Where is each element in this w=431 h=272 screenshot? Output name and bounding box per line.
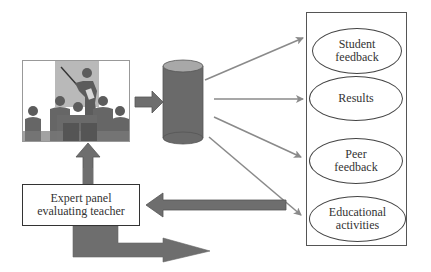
- arrow-to-student-feedback: [205, 38, 303, 80]
- arrow-to-peer-feedback: [214, 117, 301, 157]
- node-label: Results: [338, 92, 373, 105]
- database-cylinder-icon: [163, 60, 203, 144]
- arrow-outputs-to-expert-panel: [146, 193, 286, 217]
- node-label: Peer feedback: [331, 148, 381, 174]
- node-label: Student feedback: [331, 38, 383, 64]
- classroom-image: [22, 60, 130, 142]
- arrow-expert-panel-to-classroom: [76, 143, 100, 184]
- teacher-presenting-to-class-icon: [23, 61, 130, 142]
- node-peer-feedback: Peer feedback: [309, 138, 403, 184]
- arrow-expert-panel-outward: [73, 226, 210, 262]
- node-results: Results: [309, 76, 403, 121]
- node-expert-panel: Expert panel evaluating teacher: [22, 184, 140, 226]
- node-student-feedback: Student feedback: [312, 28, 402, 74]
- connector-lines: [205, 38, 303, 215]
- node-educational-activities: Educational activities: [309, 196, 406, 242]
- node-label: Educational activities: [327, 206, 389, 232]
- arrow-classroom-to-database: [135, 91, 163, 113]
- node-label: Expert panel evaluating teacher: [26, 192, 136, 218]
